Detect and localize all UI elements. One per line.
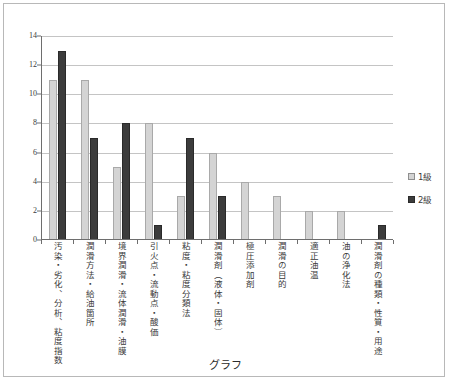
x-axis-line — [41, 239, 393, 240]
category-label: 汚染・劣化、分析、粘度指数 — [52, 242, 62, 366]
legend-item-series-2: 2級 — [408, 193, 450, 205]
category-label: 潤滑剤の種類・性質・用途 — [372, 242, 382, 356]
bar-series-1 — [337, 211, 345, 240]
bar-group — [241, 36, 258, 240]
bar-series-1 — [113, 167, 121, 240]
x-tick-mark — [393, 240, 394, 244]
y-tick-label: 12 — [29, 61, 37, 69]
bar-series-1 — [81, 80, 89, 240]
legend-item-series-1: 1級 — [408, 170, 450, 182]
bar-group — [145, 36, 162, 240]
bar-series-1 — [273, 196, 281, 240]
bar-group — [209, 36, 226, 240]
y-tick-label: 0 — [33, 236, 37, 244]
y-tick-mark — [37, 65, 41, 66]
bar-group — [113, 36, 130, 240]
bar-series-2 — [186, 138, 194, 240]
bar-series-1 — [145, 123, 153, 240]
category-labels: 汚染・劣化、分析、粘度指数潤滑方法・給油箇所境界潤滑・流体潤滑・油膜引火点・流動… — [41, 242, 393, 354]
series-2-swatch-icon — [408, 196, 415, 203]
x-axis-title: グラフ — [4, 356, 446, 372]
y-tick-label: 4 — [33, 178, 37, 186]
bar-group — [369, 36, 386, 240]
y-tick-label: 10 — [29, 90, 37, 98]
series-1-swatch-icon — [408, 173, 415, 180]
bar-series-2 — [90, 138, 98, 240]
y-tick-label: 8 — [33, 119, 37, 127]
y-tick-label: 6 — [33, 149, 37, 157]
bar-series-2 — [218, 196, 226, 240]
legend-label-series-2: 2級 — [418, 193, 432, 205]
category-label: 適正油温 — [308, 242, 318, 280]
chart-legend: 1級 2級 — [408, 170, 450, 216]
y-tick-mark — [37, 94, 41, 95]
category-label: 境界潤滑・流体潤滑・油膜 — [116, 242, 126, 356]
y-tick-mark — [37, 36, 41, 37]
bar-series-2 — [154, 225, 162, 240]
y-tick-mark — [37, 181, 41, 182]
y-tick-label: 14 — [29, 32, 37, 40]
bar-series-1 — [241, 182, 249, 240]
bar-series-1 — [209, 153, 217, 240]
y-axis-line — [41, 36, 42, 240]
bar-series-2 — [58, 51, 66, 240]
category-label: 潤滑方法・給油箇所 — [84, 242, 94, 328]
y-tick-mark — [37, 210, 41, 211]
bar-group — [273, 36, 290, 240]
category-label: 油の浄化法 — [340, 242, 350, 290]
bar-series-1 — [177, 196, 185, 240]
category-label: 極圧添加剤 — [244, 242, 254, 290]
bar-series-2 — [122, 123, 130, 240]
bar-series-1 — [305, 211, 313, 240]
chart-frame: 02468101214 汚染・劣化、分析、粘度指数潤滑方法・給油箇所境界潤滑・流… — [3, 3, 445, 377]
plot-wrapper: 02468101214 — [41, 36, 393, 240]
plot-area — [41, 36, 393, 240]
bar-group — [337, 36, 354, 240]
y-tick-label: 2 — [33, 207, 37, 215]
y-tick-mark — [37, 123, 41, 124]
y-tick-mark — [37, 152, 41, 153]
category-label: 潤滑剤（液体・固体） — [212, 242, 222, 337]
bar-group — [49, 36, 66, 240]
category-label: 粘度・粘度分類法 — [180, 242, 190, 318]
bar-series-2 — [378, 225, 386, 240]
category-label: 潤滑の目的 — [276, 242, 286, 290]
legend-label-series-1: 1級 — [418, 170, 432, 182]
category-label: 引火点・流動点・酸価 — [148, 242, 158, 337]
bar-series-1 — [49, 80, 57, 240]
bar-group — [305, 36, 322, 240]
bar-group — [81, 36, 98, 240]
bar-group — [177, 36, 194, 240]
